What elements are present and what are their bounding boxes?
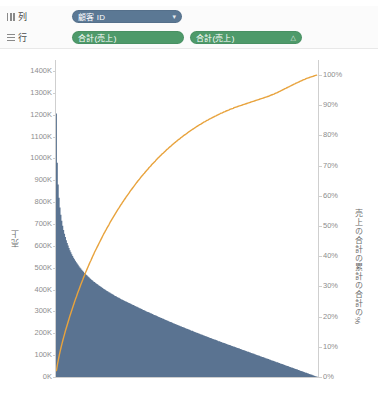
chevron-down-icon[interactable]: ▾ (172, 13, 176, 21)
y-axis-right-tick: 10% (323, 343, 357, 351)
y-axis-right-tick-mark (319, 286, 322, 287)
y-axis-left-tick: 600K (18, 242, 52, 250)
y-axis-right-tick-mark (319, 377, 322, 378)
y-axis-left-tick: 700K (18, 220, 52, 228)
y-axis-left-tick: 1200K (18, 111, 52, 119)
y-axis-left-tick: 200K (18, 329, 52, 337)
pill-sum-sales-bars[interactable]: 合計(売上) (72, 31, 184, 44)
y-axis-right-tick: 100% (323, 71, 357, 79)
y-axis-right-tick: 60% (323, 192, 357, 200)
y-axis-right-tick: 30% (323, 282, 357, 290)
rows-grid-icon (7, 34, 15, 42)
y-axis-right-tick-mark (319, 347, 322, 348)
y-axis-left-tick: 1000K (18, 154, 52, 162)
y-axis-left-tick: 1300K (18, 89, 52, 97)
y-axis-left-tick-mark (53, 377, 56, 378)
y-axis-right-tick: 20% (323, 313, 357, 321)
pill-sum-sales-running-pct[interactable]: 合計(売上) △ (190, 31, 302, 44)
pill-sum-sales-running-pct-text: 合計(売上) (196, 32, 235, 43)
y-axis-right-tick: 40% (323, 252, 357, 260)
y-axis-right-tick: 70% (323, 162, 357, 170)
y-axis-right-tick: 90% (323, 101, 357, 109)
plot-area (56, 60, 318, 377)
y-axis-left-tick: 500K (18, 264, 52, 272)
y-axis-right-tick: 80% (323, 131, 357, 139)
y-axis-right-tick-mark (319, 75, 322, 76)
columns-grid-icon (7, 13, 15, 21)
table-calculation-delta-icon[interactable]: △ (291, 34, 296, 42)
x-axis-line (55, 377, 319, 378)
columns-shelf-label: 列 (0, 10, 72, 23)
y-axis-left-tick: 100K (18, 351, 52, 359)
y-axis-right-tick-mark (319, 166, 322, 167)
y-axis-left-tick: 0K (18, 373, 52, 381)
pareto-chart: 売上 売上の合計の累計の合計の% 0K100K200K300K400K500K6… (0, 49, 378, 393)
y-axis-left-tick: 900K (18, 176, 52, 184)
y-axis-right-tick-mark (319, 317, 322, 318)
y-axis-right-tick: 0% (323, 373, 357, 381)
cumulative-line-series (56, 60, 318, 377)
y-axis-right-tick-mark (319, 226, 322, 227)
rows-label-text: 行 (18, 31, 27, 44)
y-axis-right-tick-mark (319, 135, 322, 136)
pill-customer-id[interactable]: 顧客 ID ▾ (72, 10, 182, 23)
y-axis-right-tick-mark (319, 196, 322, 197)
pill-customer-id-text: 顧客 ID (78, 11, 105, 22)
y-axis-left-tick: 1100K (18, 133, 52, 141)
y-axis-left-tick: 800K (18, 198, 52, 206)
pill-sum-sales-bars-text: 合計(売上) (78, 32, 117, 43)
y-axis-left-tick: 300K (18, 307, 52, 315)
rows-shelf-label: 行 (0, 31, 72, 44)
columns-shelf[interactable]: 列 顧客 ID ▾ (0, 6, 378, 28)
y-axis-left-tick: 1400K (18, 67, 52, 75)
y-axis-right-tick-mark (319, 256, 322, 257)
y-axis-right-tick-mark (319, 105, 322, 106)
y-axis-right-line (318, 60, 319, 378)
y-axis-left-tick: 400K (18, 286, 52, 294)
y-axis-right-tick: 50% (323, 222, 357, 230)
rows-shelf[interactable]: 行 合計(売上) 合計(売上) △ (0, 27, 378, 49)
columns-label-text: 列 (18, 10, 27, 23)
